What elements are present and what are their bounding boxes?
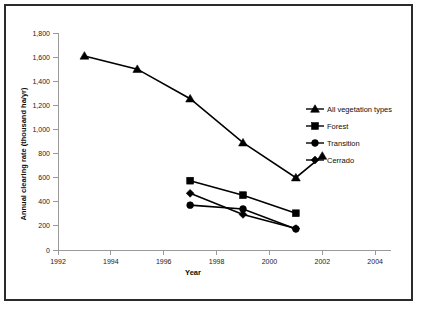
x-axis-title: Year: [185, 268, 201, 277]
series-layer: [80, 52, 327, 233]
legend-item-forest[interactable]: Forest: [306, 122, 349, 131]
marker-circle: [312, 140, 319, 147]
y-tick-label: 200: [38, 222, 50, 229]
line-chart: Annual clearing rate (thousand ha/yr) Ye…: [6, 6, 415, 303]
legend-item-transition[interactable]: Transition: [306, 139, 360, 148]
y-tick-label: 400: [38, 198, 50, 205]
marker-square: [292, 210, 299, 217]
x-axis-labels: 1992199419961998200020022004: [50, 258, 383, 265]
screenshot-root: Annual clearing rate (thousand ha/yr) Ye…: [0, 0, 421, 313]
y-axis-labels: 02004006008001,0001,2001,4001,6001,800: [32, 30, 50, 254]
marker-diamond: [311, 156, 319, 164]
figure-frame: Annual clearing rate (thousand ha/yr) Ye…: [4, 4, 413, 301]
legend-label: All vegetation types: [327, 105, 392, 114]
marker-circle: [187, 202, 194, 209]
x-tick-label: 2000: [262, 258, 278, 265]
legend-item-all-vegetation-types[interactable]: All vegetation types: [306, 105, 392, 114]
y-axis-title: Annual clearing rate (thousand ha/yr): [19, 87, 28, 220]
series-all-vegetation-types: [80, 52, 327, 181]
x-tick-label: 1996: [156, 258, 172, 265]
y-tick-label: 800: [38, 150, 50, 157]
y-tick-label: 1,800: [32, 30, 50, 37]
marker-triangle: [80, 52, 89, 59]
chart-canvas: Annual clearing rate (thousand ha/yr) Ye…: [6, 6, 415, 303]
legend-label: Cerrado: [327, 156, 354, 165]
y-tick-label: 0: [46, 247, 50, 254]
y-tick-label: 600: [38, 174, 50, 181]
legend: All vegetation typesForestTransitionCerr…: [306, 105, 392, 165]
marker-square: [312, 123, 319, 130]
y-tick-label: 1,000: [32, 126, 50, 133]
x-tick-label: 1992: [50, 258, 66, 265]
legend-label: Forest: [327, 122, 349, 131]
legend-label: Transition: [327, 139, 360, 148]
marker-triangle: [186, 94, 195, 101]
y-axis-ticks: [53, 33, 58, 250]
y-tick-label: 1,200: [32, 102, 50, 109]
marker-triangle: [318, 152, 327, 159]
marker-square: [240, 192, 247, 199]
y-tick-label: 1,400: [32, 78, 50, 85]
marker-diamond: [239, 211, 247, 219]
series-line: [84, 56, 322, 178]
x-tick-label: 1998: [209, 258, 225, 265]
x-axis-ticks: [58, 250, 375, 255]
x-tick-label: 1994: [103, 258, 119, 265]
marker-diamond: [186, 189, 194, 197]
y-tick-label: 1,600: [32, 54, 50, 61]
marker-square: [187, 177, 194, 184]
x-tick-label: 2002: [314, 258, 330, 265]
x-tick-label: 2004: [367, 258, 383, 265]
